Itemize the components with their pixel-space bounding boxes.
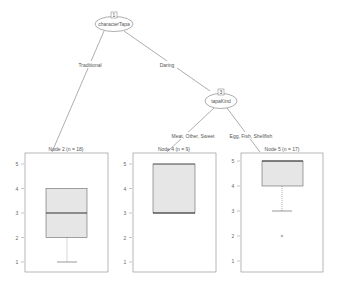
terminal-panel-node-5: Node 5 (n = 17) 5 4 3 2 1 bbox=[232, 146, 323, 272]
split-node-3: 3 tapaKind bbox=[205, 89, 237, 109]
edge-label-egg: Egg, Fish, Shellfish bbox=[230, 133, 273, 139]
edge-traditional bbox=[52, 31, 104, 152]
panel-title: Node 5 (n = 17) bbox=[265, 146, 300, 152]
edge-label-daring: Daring bbox=[160, 62, 175, 68]
split-variable: tapaKind bbox=[211, 98, 231, 104]
boxplot bbox=[262, 161, 303, 237]
tick-label: 5 bbox=[232, 158, 235, 164]
tick-label: 1 bbox=[232, 258, 235, 264]
tick-label: 5 bbox=[16, 161, 19, 167]
edge-label-meat: Meat, Other, Sweet bbox=[172, 133, 215, 139]
terminal-panel-node-4: Node 4 (n = 9) 5 4 3 2 1 bbox=[124, 146, 216, 272]
tick-label: 1 bbox=[124, 259, 127, 265]
tick-label: 3 bbox=[124, 210, 127, 216]
tick-label: 4 bbox=[124, 186, 127, 192]
y-axis: 5 4 3 2 1 bbox=[124, 161, 132, 265]
y-axis: 5 4 3 2 1 bbox=[16, 161, 24, 265]
tick-label: 2 bbox=[124, 235, 127, 241]
split-variable: characterTapa bbox=[98, 21, 130, 27]
split-node-1: 1 characterTapa bbox=[95, 12, 133, 32]
edge-label-traditional: Traditional bbox=[78, 62, 101, 68]
tick-label: 1 bbox=[16, 259, 19, 265]
panel-title: Node 2 (n = 18) bbox=[49, 146, 84, 152]
boxplot bbox=[46, 189, 87, 263]
tick-label: 4 bbox=[232, 183, 235, 189]
tick-label: 2 bbox=[16, 235, 19, 241]
tick-label: 4 bbox=[16, 186, 19, 192]
tick-label: 3 bbox=[232, 208, 235, 214]
edge-egg bbox=[227, 108, 260, 152]
boxplot bbox=[153, 164, 195, 213]
node-id: 3 bbox=[220, 89, 223, 95]
y-axis: 5 4 3 2 1 bbox=[232, 158, 240, 264]
panel-title: Node 4 (n = 9) bbox=[158, 146, 190, 152]
tick-label: 5 bbox=[124, 161, 127, 167]
tick-label: 2 bbox=[232, 233, 235, 239]
node-id: 1 bbox=[113, 12, 116, 18]
outlier-point bbox=[281, 235, 283, 237]
tick-label: 3 bbox=[16, 210, 19, 216]
tree-chart: 1 characterTapa Traditional Daring 3 tap… bbox=[0, 0, 341, 286]
terminal-panel-node-2: Node 2 (n = 18) 5 4 3 2 1 bbox=[16, 146, 108, 272]
